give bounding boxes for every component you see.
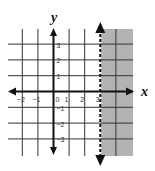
y-tick-label: 2	[57, 57, 61, 64]
y-tick-label: 3	[57, 42, 61, 49]
x-axis-arrow-left	[8, 88, 16, 96]
y-tick-label: 1	[57, 73, 61, 80]
y-axis-arrow-down	[50, 147, 57, 155]
x-tick-label: 2	[80, 96, 84, 103]
y-tick-label: −3	[57, 136, 65, 143]
y-axis-label: y	[49, 10, 58, 25]
y-tick-label: −2	[57, 121, 65, 128]
y-tick-label: −1	[57, 105, 65, 112]
x-tick-label: 1	[65, 96, 69, 103]
x-axis-label: x	[140, 84, 148, 99]
inequality-chart: −2−10123321−1−2−3 x y	[0, 0, 155, 171]
x-tick-label: 3	[96, 96, 100, 103]
boundary-arrow-down	[95, 155, 105, 166]
boundary-arrow-up	[95, 22, 105, 33]
y-axis-arrow-up	[50, 28, 57, 36]
x-tick-label: −1	[32, 96, 40, 103]
x-tick-label: 0	[56, 96, 60, 103]
x-tick-label: −2	[17, 96, 25, 103]
